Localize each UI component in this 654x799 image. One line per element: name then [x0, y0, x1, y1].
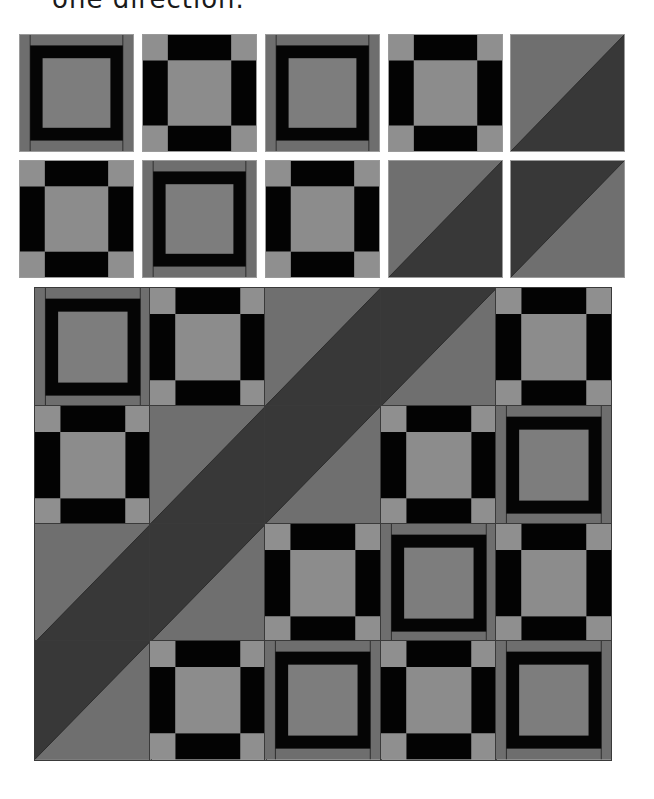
sample-block-nine — [388, 34, 503, 152]
sample-block-hst-a — [510, 34, 625, 152]
quilt-block-nine — [150, 641, 266, 759]
quilt-block-hst-b — [265, 406, 381, 524]
caption-text: one direction. — [52, 0, 245, 14]
sample-block-nine — [265, 160, 380, 278]
quilt-block-frame — [265, 641, 381, 759]
quilt-block-nine — [496, 524, 612, 642]
sample-block-frame — [265, 34, 380, 152]
sample-block-frame — [19, 34, 134, 152]
quilt-block-frame — [496, 641, 612, 759]
quilt-block-frame — [35, 288, 151, 406]
sample-block-nine — [19, 160, 134, 278]
quilt-block-hst-b — [150, 524, 266, 642]
quilt-block-hst-a — [35, 524, 151, 642]
quilt-block-nine — [265, 524, 381, 642]
sample-block-nine — [142, 34, 257, 152]
quilt-block-hst-b — [381, 288, 497, 406]
quilt-layout — [34, 287, 612, 760]
quilt-block-hst-a — [150, 406, 266, 524]
sample-block-hst-a — [388, 160, 503, 278]
quilt-block-nine — [381, 641, 497, 759]
quilt-block-nine — [35, 406, 151, 524]
sample-block-frame — [142, 160, 257, 278]
quilt-block-hst-b — [35, 641, 151, 759]
quilt-block-hst-a — [265, 288, 381, 406]
quilt-block-frame — [496, 406, 612, 524]
sample-block-hst-b — [510, 160, 625, 278]
quilt-block-frame — [381, 524, 497, 642]
quilt-block-nine — [496, 288, 612, 406]
quilt-block-nine — [150, 288, 266, 406]
quilt-block-nine — [381, 406, 497, 524]
